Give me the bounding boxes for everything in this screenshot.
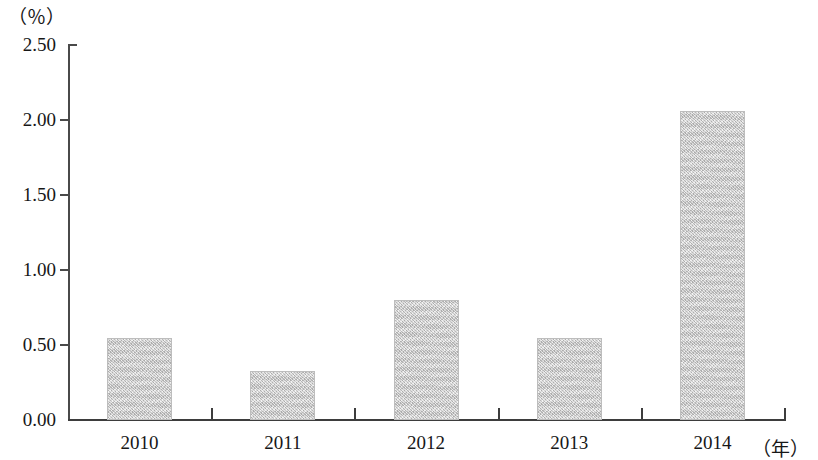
x-axis-right-cap xyxy=(784,408,786,421)
x-axis-tick xyxy=(354,408,356,420)
x-axis-unit-label: （年） xyxy=(752,434,809,460)
y-axis-tick xyxy=(60,194,69,196)
y-axis-tick-label: 0.50 xyxy=(2,334,56,356)
x-axis-tick xyxy=(641,408,643,420)
y-axis-unit-label: （％） xyxy=(8,2,65,29)
y-axis-tick-label: 0.00 xyxy=(2,409,56,431)
x-axis-category-label: 2014 xyxy=(672,432,752,454)
x-axis-category-label: 2011 xyxy=(243,432,323,454)
y-axis-tick xyxy=(60,269,69,271)
bar xyxy=(394,300,459,420)
y-axis-tick xyxy=(60,344,69,346)
x-axis-category-label: 2010 xyxy=(100,432,180,454)
bar xyxy=(537,338,602,421)
y-axis-tick-label: 1.50 xyxy=(2,184,56,206)
y-axis-tick xyxy=(60,119,69,121)
y-axis-tick-label: 1.00 xyxy=(2,259,56,281)
bar xyxy=(680,111,745,420)
y-axis-tick-label: 2.00 xyxy=(2,109,56,131)
x-axis-tick xyxy=(211,408,213,420)
x-axis-category-label: 2013 xyxy=(529,432,609,454)
bar xyxy=(250,371,315,421)
x-axis-category-label: 2012 xyxy=(386,432,466,454)
x-axis-tick xyxy=(498,408,500,420)
y-axis-line xyxy=(68,44,70,421)
y-axis-top-cap xyxy=(68,44,77,46)
bar-chart: （％） （年） 0.000.501.001.502.002.50 2010201… xyxy=(0,0,818,460)
y-axis-tick-label: 2.50 xyxy=(2,34,56,56)
bar xyxy=(107,338,172,421)
